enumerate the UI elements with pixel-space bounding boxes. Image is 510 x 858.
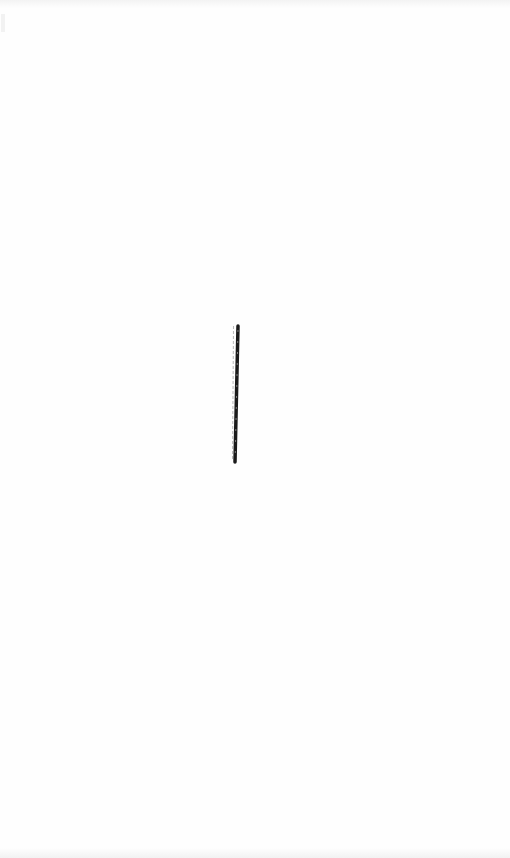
blank-sheet bbox=[0, 0, 510, 858]
faint-guide-stroke bbox=[233, 326, 234, 460]
pen-stroke-layer bbox=[0, 0, 510, 858]
bottom-edge-shadow bbox=[0, 848, 510, 858]
